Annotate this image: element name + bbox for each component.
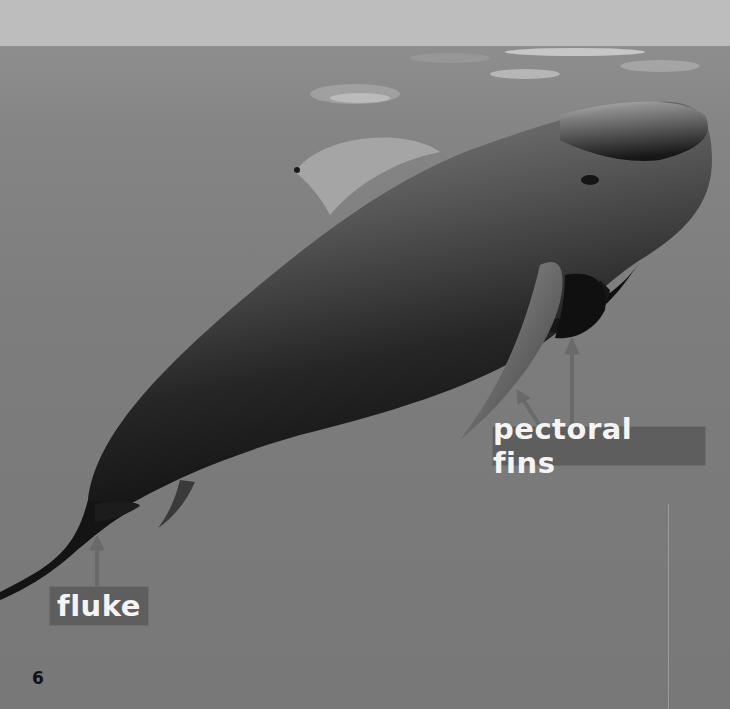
pectoral-fins-label-text: pectoral fins <box>493 412 705 480</box>
book-page: pectoral fins fluke 6 <box>0 0 730 709</box>
scan-line-artifact <box>668 504 669 709</box>
arrow-up-icon <box>90 536 104 586</box>
pectoral-fins-label: pectoral fins <box>492 426 706 466</box>
fluke-label-text: fluke <box>57 589 141 623</box>
fluke-label: fluke <box>49 586 149 626</box>
page-number: 6 <box>32 668 44 688</box>
